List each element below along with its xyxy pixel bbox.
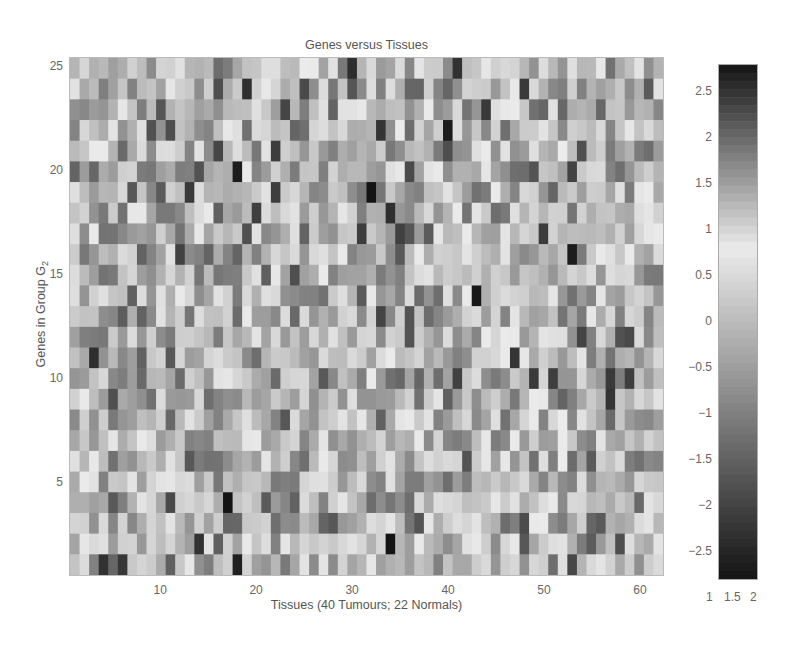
x-tick-label: 50 [529,583,559,597]
chart-title: Genes versus Tissues [69,38,664,52]
colorbar-tick-label: −1.5 [672,452,712,466]
colorbar-tick-label: 0.5 [672,268,712,282]
y-tick-label: 5 [33,475,63,489]
colorbar-x-tick-label: 1 [706,590,713,604]
x-axis-label: Tissues (40 Tumours; 22 Normals) [69,598,664,612]
y-tick-label: 25 [33,59,63,73]
colorbar-tick-label: 0 [672,314,712,328]
colorbar-tick-label: 1.5 [672,176,712,190]
colorbar-tick-label: 1 [672,222,712,236]
x-tick-label: 60 [625,583,655,597]
x-tick-label: 30 [337,583,367,597]
colorbar-tick-label: 2 [672,130,712,144]
colorbar-x-tick-label: 1.5 [724,590,741,604]
heatmap-plot-area [69,57,664,576]
x-tick-label: 40 [433,583,463,597]
colorbar-gradient [719,65,757,579]
colorbar-x-tick-label: 2 [750,590,757,604]
heatmap-cells [70,58,663,575]
colorbar-tick-label: 2.5 [672,84,712,98]
colorbar-tick-label: −1 [672,406,712,420]
y-tick-label: 20 [33,163,63,177]
colorbar [718,64,758,580]
x-tick-label: 10 [145,583,175,597]
colorbar-tick-label: −2.5 [672,544,712,558]
colorbar-tick-label: −2 [672,498,712,512]
y-axis-label: Genes in Group G2 [34,204,51,424]
x-tick-label: 20 [241,583,271,597]
colorbar-tick-label: −0.5 [672,360,712,374]
